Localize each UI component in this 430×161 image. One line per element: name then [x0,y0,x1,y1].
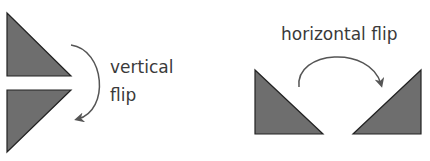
triangle-flipped-vertical [7,90,71,152]
vertical-label-line1: vertical [110,57,173,77]
vertical-label-line2: flip [110,85,136,105]
flip-diagram: vertical flip horizontal flip [0,0,430,161]
vertical-flip-arrow [71,45,99,119]
horizontal-flip-arrow [299,57,381,87]
triangle-original-vertical [7,13,71,76]
horizontal-label: horizontal flip [281,24,397,44]
triangle-original-horizontal [255,70,323,134]
triangle-flipped-horizontal [353,70,421,134]
